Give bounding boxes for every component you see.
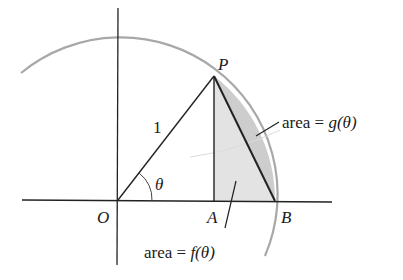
- y-axis: [117, 8, 118, 265]
- angle-theta-arc: [139, 173, 152, 201]
- x-axis: [22, 200, 332, 202]
- label-theta: θ: [155, 175, 163, 194]
- label-O: O: [97, 208, 109, 227]
- area-g-func: g(θ): [328, 113, 357, 132]
- leader-g: [256, 122, 279, 136]
- area-f-prefix: area =: [144, 243, 190, 262]
- label-area-g: area = g(θ): [282, 113, 357, 132]
- label-area-f: area = f(θ): [144, 243, 215, 262]
- label-B: B: [281, 208, 292, 227]
- area-g-prefix: area =: [282, 113, 328, 132]
- radius-OP: [118, 76, 214, 200]
- area-f-func: f(θ): [190, 243, 215, 262]
- label-radius-1: 1: [153, 118, 162, 137]
- label-A: A: [206, 208, 218, 227]
- unit-circle-diagram: P O A B 1 θ area = g(θ) area = f(θ): [0, 0, 403, 280]
- label-P: P: [217, 55, 228, 74]
